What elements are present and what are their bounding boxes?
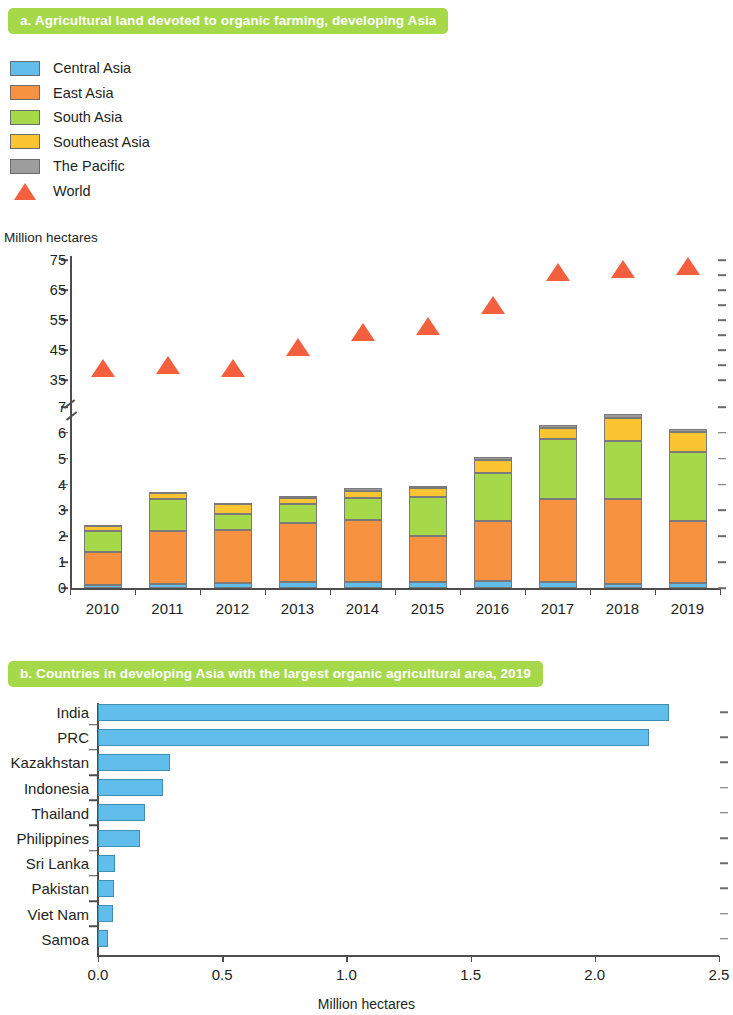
y-axis-tick-right (718, 379, 726, 381)
horizontal-bar[interactable] (98, 905, 113, 922)
bar-segment-the-pacific (214, 503, 252, 505)
y-axis-tick-right (718, 458, 726, 460)
x-axis-tick-label: 2015 (393, 600, 463, 617)
bar-segment-the-pacific (344, 488, 382, 491)
stacked-bar[interactable] (669, 252, 707, 597)
y-axis-tick-right (718, 289, 726, 291)
stacked-bar[interactable] (539, 252, 577, 597)
horizontal-bar[interactable] (98, 880, 114, 897)
bar-segment-south-asia (84, 531, 122, 552)
category-axis-tick (89, 925, 97, 927)
legend-color-swatch (10, 110, 40, 125)
panel-b-x-axis-tick-label: 2.5 (684, 966, 733, 983)
bar-segment-the-pacific (539, 425, 577, 428)
legend-item: Central Asia (10, 56, 150, 81)
panel-a-y-axis-line (70, 256, 72, 588)
y-axis-tick-label: 0 (6, 580, 66, 596)
y-axis-tick-right (718, 484, 726, 486)
y-axis-minor-tick-right (718, 304, 726, 306)
bar-segment-the-pacific (84, 525, 122, 527)
bar-segment-east-asia (669, 521, 707, 583)
bar-segment-east-asia (344, 520, 382, 582)
panel-b-x-axis-line (97, 955, 719, 957)
panel-b-title: b. Countries in developing Asia with the… (8, 661, 543, 687)
y-axis-tick-label: 75 (6, 252, 66, 268)
category-axis-tick-right (720, 787, 728, 789)
y-axis-tick-right (718, 259, 726, 261)
legend-item-label: Southeast Asia (53, 134, 150, 150)
bar-segment-east-asia (279, 523, 317, 582)
x-axis-tick (330, 589, 331, 595)
x-axis-tick (265, 589, 266, 595)
legend-color-swatch (10, 61, 40, 76)
category-axis-tick-right (720, 736, 728, 738)
horizontal-bar[interactable] (98, 729, 649, 746)
panel-b-x-axis-tick (471, 956, 472, 962)
x-axis-tick (720, 589, 721, 595)
x-axis-tick (460, 589, 461, 595)
bar-segment-the-pacific (409, 486, 447, 489)
x-axis-tick (200, 589, 201, 595)
stacked-bar[interactable] (214, 252, 252, 597)
bar-segment-southeast-asia (214, 504, 252, 513)
bar-segment-south-asia (279, 504, 317, 522)
bar-segment-the-pacific (474, 457, 512, 460)
panel-a-chart: 0123456735455565752010201120122013201420… (0, 252, 733, 597)
bar-segment-south-asia (149, 499, 187, 531)
panel-b-x-axis-tick-label: 0.0 (63, 966, 133, 983)
legend-item-label: The Pacific (53, 158, 125, 174)
stacked-bar[interactable] (279, 252, 317, 597)
x-axis-tick-label: 2011 (133, 600, 203, 617)
legend-panel-a: Central AsiaEast AsiaSouth AsiaSoutheast… (10, 56, 150, 203)
bar-segment-the-pacific (669, 429, 707, 432)
legend-item-label: World (53, 183, 91, 199)
horizontal-bar[interactable] (98, 804, 145, 821)
bar-segment-southeast-asia (344, 491, 382, 499)
x-axis-tick-label: 2014 (328, 600, 398, 617)
category-label: Philippines (0, 830, 89, 847)
world-data-point-marker (221, 359, 245, 377)
bar-segment-southeast-asia (539, 428, 577, 440)
y-axis-tick-right (718, 432, 726, 434)
stacked-bar[interactable] (409, 252, 447, 597)
panel-b-x-axis-tick (346, 956, 347, 962)
category-axis-tick (89, 850, 97, 852)
category-axis-tick-right (720, 938, 728, 940)
legend-item: Southeast Asia (10, 130, 150, 155)
stacked-bar[interactable] (344, 252, 382, 597)
y-axis-tick-label: 2 (6, 528, 66, 544)
horizontal-bar[interactable] (98, 930, 108, 947)
bar-segment-the-pacific (279, 496, 317, 498)
horizontal-bar[interactable] (98, 779, 163, 796)
panel-b-x-axis-tick (222, 956, 223, 962)
category-axis-tick (89, 900, 97, 902)
world-data-point-marker (156, 356, 180, 374)
category-axis-tick-right (720, 862, 728, 864)
bar-segment-south-asia (409, 497, 447, 536)
horizontal-bar[interactable] (98, 704, 669, 721)
bar-segment-central-asia (669, 583, 707, 588)
x-axis-tick-label: 2018 (588, 600, 658, 617)
horizontal-bar[interactable] (98, 855, 115, 872)
y-axis-tick-label: 5 (6, 451, 66, 467)
bar-segment-southeast-asia (409, 488, 447, 497)
horizontal-bar[interactable] (98, 830, 140, 847)
x-axis-tick (70, 589, 71, 595)
panel-b-x-axis-tick-label: 2.0 (560, 966, 630, 983)
x-axis-tick-label: 2010 (68, 600, 138, 617)
category-axis-tick-right (720, 711, 728, 713)
stacked-bar[interactable] (604, 252, 642, 597)
y-axis-tick-right (718, 535, 726, 537)
world-data-point-marker (286, 338, 310, 356)
stacked-bar[interactable] (84, 252, 122, 597)
panel-b-x-axis-tick-label: 0.5 (187, 966, 257, 983)
world-data-point-marker (481, 296, 505, 314)
x-axis-tick-label: 2017 (523, 600, 593, 617)
horizontal-bar[interactable] (98, 754, 170, 771)
bar-segment-the-pacific (604, 414, 642, 418)
stacked-bar[interactable] (149, 252, 187, 597)
panel-a-title: a. Agricultural land devoted to organic … (8, 8, 448, 34)
legend-item: World (10, 179, 150, 204)
y-axis-tick-label: 35 (6, 372, 66, 388)
category-axis-tick (89, 774, 97, 776)
